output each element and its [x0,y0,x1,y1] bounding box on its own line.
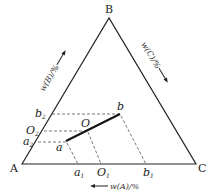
axis-b: w(B)/% [38,48,70,93]
arrowhead-left-icon [90,184,95,188]
arrow-up-icon [57,53,64,65]
slanted-projections [67,116,146,164]
arrow-down-icon [159,68,166,80]
dash-O-O1 [88,132,101,164]
axis-c: w(C)/% [139,40,171,85]
mark-a1: a1 [74,166,84,179]
mark-o1: O1 [97,166,110,179]
mark-b2: b2 [35,107,46,120]
point-label-b: b [117,100,124,113]
horizontal-projections [35,114,120,142]
vertex-label-c: C [198,162,206,175]
axis-label-b: w(B)/% [38,63,61,93]
tie-line-ab [66,114,120,141]
vertex-label-a: A [9,162,19,175]
mark-b1: b1 [143,166,154,179]
point-label-a: a [56,141,63,154]
axis-label-c: w(C)/% [139,40,162,70]
axis-a: w(A)/% [90,182,140,191]
arrowhead-down-icon [163,77,169,83]
dash-b-b1 [121,116,146,164]
ternary-diagram: B A C b O a b2 O2 a2 a1 O1 b1 w(A)/% w(B… [0,0,213,195]
dash-a-a1 [67,143,78,164]
axis-label-a: w(A)/% [110,182,140,191]
vertex-label-b: B [105,3,113,16]
point-label-o: O [81,117,90,130]
arrowhead-up-icon [61,49,67,55]
